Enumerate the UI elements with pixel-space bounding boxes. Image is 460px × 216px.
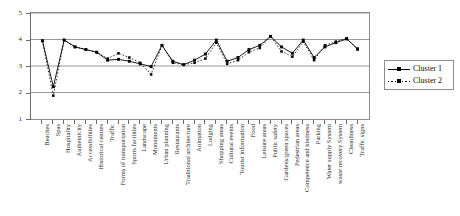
x-axis-label: Gardens/green spaces (283, 124, 290, 181)
x-axis-label: Water supply System (326, 124, 333, 179)
x-axis-label: Forms of transportation (120, 124, 127, 185)
x-axis-label: Landscape (141, 124, 148, 152)
x-axis-label: Animation (196, 124, 203, 152)
x-axis-label: Beaches (44, 124, 51, 146)
x-axis-tick (259, 120, 260, 124)
x-axis-label: Traditional architecture (185, 124, 192, 185)
legend-label-cluster-2: Cluster 2 (413, 77, 442, 85)
chart-figure: 12345 BeachesSpasHospitalityAuthenticity… (0, 0, 460, 216)
y-axis-label: 2 (8, 89, 22, 96)
y-axis-line (30, 12, 31, 120)
chart-legend: Cluster 1 Cluster 2 (384, 60, 454, 90)
x-axis-label: Cultural events (228, 124, 235, 164)
x-axis-label: Pedestrian areas (294, 124, 301, 166)
x-axis-label: Public safety (272, 124, 279, 158)
x-axis-label: Parking (315, 124, 322, 144)
y-axis-label: 4 (8, 36, 22, 43)
x-axis-label: Urban planning (163, 124, 170, 165)
x-axis-label: Tourist information (239, 124, 246, 175)
x-axis-label: Food (250, 124, 257, 137)
x-axis-label: Lodging (207, 124, 214, 146)
x-axis-label: Traffic (109, 124, 116, 142)
x-axis-label: Leisure areas (261, 124, 268, 158)
x-axis-label: Historical centres (98, 124, 105, 170)
plot-wrapper (30, 12, 370, 120)
x-axis-label: Sports facilities (131, 124, 138, 165)
x-axis-label: waste recovery System (337, 124, 344, 184)
legend-item-cluster-1: Cluster 1 (388, 63, 450, 75)
x-axis-label: Hospitality (65, 124, 72, 153)
x-axis-label: Restaurants (174, 124, 181, 154)
plot-area (30, 12, 370, 120)
x-axis-label: Competence and kindness (304, 124, 311, 192)
y-axis-label: 3 (8, 63, 22, 70)
x-axis-label: Shopping areas (218, 124, 225, 164)
y-axis-label: 5 (8, 10, 22, 17)
legend-item-cluster-2: Cluster 2 (388, 75, 450, 87)
legend-key-dotted-line (388, 77, 410, 85)
x-axis-label: Authenticity (76, 124, 83, 157)
x-axis-label: Spas (55, 124, 62, 136)
x-axis-tick (118, 120, 119, 124)
x-axis-label: Monuments (152, 124, 159, 155)
legend-key-solid-line (388, 65, 410, 73)
x-axis-label: Traffic signs (359, 124, 366, 157)
x-axis-labels: BeachesSpasHospitalityAuthenticityAccess… (30, 124, 370, 216)
y-axis-label: 1 (8, 116, 22, 123)
x-axis-label: Cleanliness (348, 124, 355, 154)
chart-canvas (31, 13, 369, 119)
x-axis-label: Accessibilities (87, 124, 94, 162)
legend-label-cluster-1: Cluster 1 (413, 65, 442, 73)
